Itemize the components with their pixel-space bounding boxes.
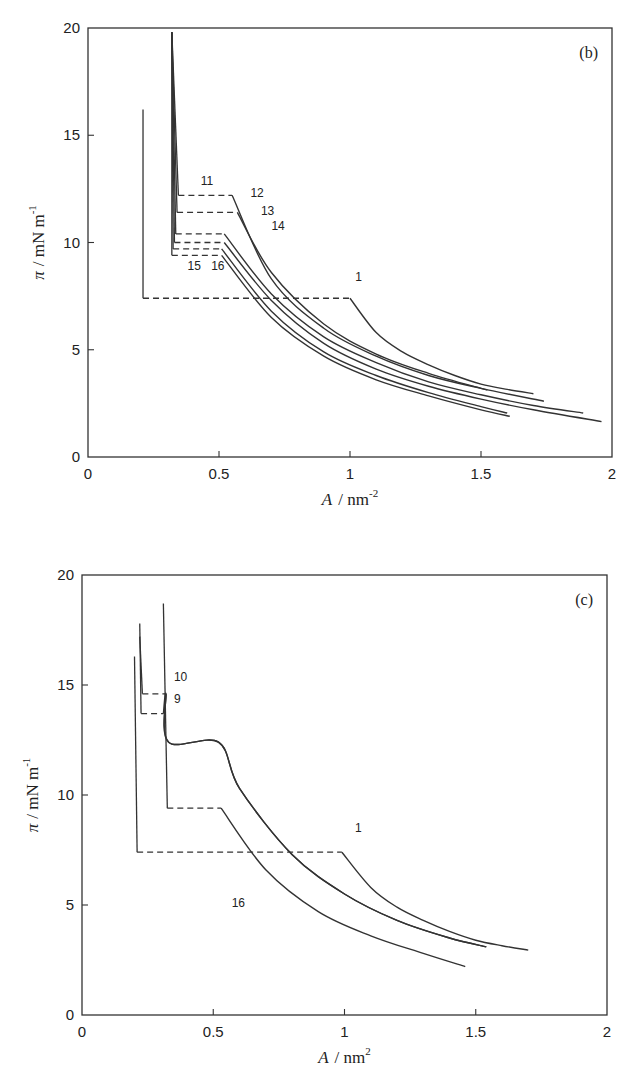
- y-axis-title: π/ mN m-1: [26, 205, 48, 280]
- x-tick-label: 1.5: [471, 465, 492, 482]
- panel-label: (b): [579, 44, 598, 62]
- x-axis-symbol: A: [321, 490, 333, 509]
- isotherm-15: [172, 32, 507, 413]
- isotherm-16: [163, 604, 465, 967]
- isotherm-1: [135, 656, 529, 950]
- x-tick-label: 1.5: [465, 1023, 486, 1040]
- plot-frame: [88, 28, 612, 457]
- isotherm-10: [140, 637, 487, 947]
- isotherm-14: [172, 32, 602, 421]
- x-axis-exponent: 2: [365, 1045, 371, 1057]
- expansion-segment: [222, 249, 508, 413]
- y-axis-unit: mN m: [23, 767, 42, 810]
- x-tick-label: 0.5: [209, 465, 230, 482]
- curve-label-1: 1: [355, 821, 362, 835]
- y-tick-label: 5: [72, 341, 80, 358]
- x-tick-label: 0: [84, 465, 92, 482]
- y-axis-exponent: -1: [20, 758, 32, 767]
- x-tick-label: 2: [603, 1023, 611, 1040]
- curve-label-16: 16: [232, 896, 246, 910]
- expansion-segment: [224, 243, 601, 422]
- curve-label-15: 15: [188, 259, 202, 273]
- x-axis-title: A/ nm2: [317, 1045, 371, 1067]
- y-tick-label: 0: [66, 1006, 74, 1023]
- x-tick-label: 0.5: [203, 1023, 224, 1040]
- isotherm-12: [172, 32, 487, 390]
- panel-label: (c): [575, 591, 593, 609]
- y-tick-label: 10: [63, 234, 80, 251]
- y-tick-label: 5: [66, 896, 74, 913]
- curve-label-11: 11: [201, 174, 214, 188]
- curve-label-10: 10: [174, 670, 188, 684]
- x-axis-unit: nm: [347, 490, 369, 509]
- x-axis-slash: /: [338, 490, 347, 509]
- y-axis-exponent: -1: [26, 205, 38, 214]
- panel-c-chart: 00.511.5205101520A/ nm2π/ mN m-1(c)19101…: [20, 566, 611, 1067]
- y-tick-label: 15: [57, 676, 74, 693]
- y-axis-slash: /: [29, 257, 48, 266]
- x-axis-slash: /: [335, 1048, 344, 1067]
- x-axis-symbol: A: [317, 1048, 329, 1067]
- y-tick-label: 0: [72, 448, 80, 465]
- curve-label-16: 16: [211, 259, 225, 273]
- expansion-segment: [221, 808, 465, 966]
- expansion-segment: [164, 694, 486, 947]
- y-tick-label: 20: [57, 566, 74, 583]
- x-axis-title: A/ nm-2: [321, 487, 378, 509]
- y-axis-title: π/ mN m-1: [20, 758, 42, 833]
- collapse-segment: [135, 656, 138, 852]
- isotherm-16: [172, 32, 510, 416]
- x-tick-label: 2: [608, 465, 616, 482]
- y-axis-symbol: π: [23, 823, 42, 832]
- x-tick-label: 0: [78, 1023, 86, 1040]
- curve-label-9: 9: [174, 692, 181, 706]
- plot-frame: [82, 575, 607, 1015]
- curve-label-1: 1: [355, 270, 362, 284]
- y-tick-label: 20: [63, 19, 80, 36]
- curve-label-13: 13: [261, 204, 275, 218]
- y-tick-label: 15: [63, 126, 80, 143]
- x-tick-label: 1: [340, 1023, 348, 1040]
- x-tick-label: 1: [346, 465, 354, 482]
- isotherm-9: [140, 623, 487, 946]
- y-axis-unit: mN m: [29, 214, 48, 257]
- x-axis-exponent: -2: [369, 487, 378, 499]
- curve-label-12: 12: [250, 186, 264, 200]
- y-tick-label: 10: [57, 786, 74, 803]
- expansion-segment: [163, 693, 486, 947]
- isotherm-13: [172, 32, 583, 413]
- figure: 00.511.5205101520A/ nm-2π/ mN m-1(b)1111…: [0, 0, 637, 1081]
- y-axis-slash: /: [23, 810, 42, 819]
- curve-label-14: 14: [271, 219, 285, 233]
- x-axis-unit: nm: [344, 1048, 366, 1067]
- y-axis-symbol: π: [29, 271, 48, 280]
- panel-b-chart: 00.511.5205101520A/ nm-2π/ mN m-1(b)1111…: [26, 19, 616, 509]
